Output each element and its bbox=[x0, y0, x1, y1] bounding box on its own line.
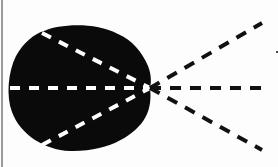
diagram-canvas bbox=[0, 0, 278, 167]
marker-dot bbox=[276, 51, 278, 53]
outer-ray-lower bbox=[150, 88, 262, 150]
ray-diagram bbox=[0, 0, 278, 167]
outer-ray-upper bbox=[150, 23, 262, 88]
outer-rays-group bbox=[150, 23, 270, 150]
